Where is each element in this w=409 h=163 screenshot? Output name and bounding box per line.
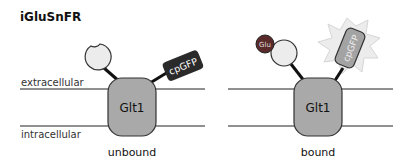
intracellular-label: intracellular <box>21 129 82 140</box>
glt1-label: Glt1 <box>120 101 145 115</box>
state-label-bound: bound <box>301 146 336 159</box>
binding-domain-icon <box>85 44 111 70</box>
panel-unbound: Glt1 cpGFP unbound <box>85 44 204 159</box>
state-label-unbound: unbound <box>108 146 157 159</box>
diagram-canvas: extracellular intracellular Glt1 cpGFP u… <box>0 0 409 163</box>
binding-domain-icon <box>271 40 297 66</box>
glu-label: Glu <box>259 41 271 49</box>
extracellular-label: extracellular <box>21 77 85 88</box>
glt1-label: Glt1 <box>306 101 331 115</box>
